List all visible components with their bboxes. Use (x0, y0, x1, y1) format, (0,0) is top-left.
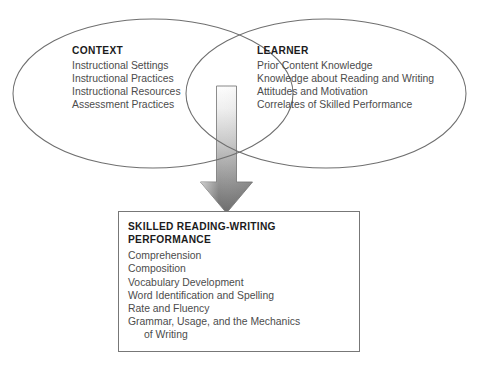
learner-item: Prior Content Knowledge (257, 60, 434, 73)
outcome-title-line2: PERFORMANCE (128, 234, 353, 247)
outcome-item: Vocabulary Development (128, 276, 353, 289)
context-item: Assessment Practices (72, 99, 181, 112)
context-group: CONTEXT Instructional Settings Instructi… (72, 44, 181, 112)
context-item-list: Instructional Settings Instructional Pra… (72, 60, 181, 112)
context-item: Instructional Settings (72, 60, 181, 73)
skilled-reading-writing-performance-box: SKILLED READING-WRITING PERFORMANCE Comp… (118, 211, 360, 352)
context-item: Instructional Resources (72, 86, 181, 99)
reading-writing-diagram: CONTEXT Instructional Settings Instructi… (0, 0, 486, 375)
outcome-item: Word Identification and Spelling (128, 289, 353, 302)
outcome-item-list: Comprehension Composition Vocabulary Dev… (128, 249, 353, 341)
outcome-item: Grammar, Usage, and the Mechanics of Wri… (128, 315, 353, 341)
learner-item: Knowledge about Reading and Writing (257, 73, 434, 86)
outcome-item: Comprehension (128, 249, 353, 262)
learner-item: Attitudes and Motivation (257, 86, 434, 99)
learner-group: LEARNER Prior Content Knowledge Knowledg… (257, 44, 434, 112)
learner-item-list: Prior Content Knowledge Knowledge about … (257, 60, 434, 112)
outcome-content: SKILLED READING-WRITING PERFORMANCE Comp… (128, 221, 353, 342)
context-title: CONTEXT (72, 44, 181, 57)
learner-item: Correlates of Skilled Performance (257, 99, 434, 112)
context-item: Instructional Practices (72, 73, 181, 86)
learner-title: LEARNER (257, 44, 434, 57)
outcome-title: SKILLED READING-WRITING PERFORMANCE (128, 221, 353, 246)
outcome-item: Composition (128, 262, 353, 275)
outcome-title-line1: SKILLED READING-WRITING (128, 221, 353, 234)
outcome-item: Rate and Fluency (128, 302, 353, 315)
